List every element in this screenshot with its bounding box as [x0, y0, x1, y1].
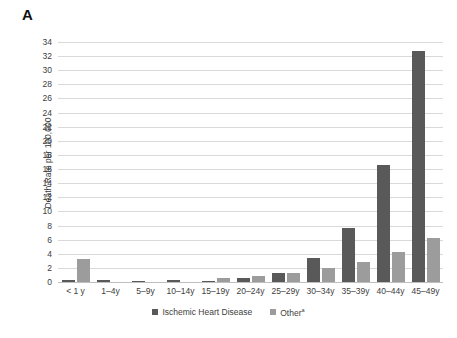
x-axis-tick-label: < 1 y	[66, 286, 85, 296]
bar	[342, 228, 355, 282]
y-axis-tick-label: 32	[26, 51, 52, 61]
x-axis-tick-label: 10–14y	[167, 286, 195, 296]
y-axis-tick-labels: 0246810121416182022242628303234	[26, 42, 52, 282]
figure-panel-a: A Death Rate per 100,000 024681012141618…	[0, 0, 457, 338]
x-axis-tick-label: 15–19y	[202, 286, 230, 296]
y-axis-tick-label: 8	[26, 221, 52, 231]
x-axis-tick-label: 45–49y	[412, 286, 440, 296]
x-axis-tick-labels: < 1 y1–4y5–9y10–14y15–19y20–24y25–29y30–…	[58, 286, 443, 302]
y-axis-tick-label: 4	[26, 249, 52, 259]
x-axis-tick-label: 5–9y	[136, 286, 154, 296]
y-axis-tick-label: 12	[26, 192, 52, 202]
panel-label: A	[22, 7, 33, 22]
bar	[377, 165, 390, 282]
y-axis-tick-label: 10	[26, 206, 52, 216]
legend-item[interactable]: Ischemic Heart Disease	[152, 307, 252, 317]
bar	[392, 252, 405, 282]
legend-label: Ischemic Heart Disease	[162, 307, 252, 317]
legend-swatch-icon	[152, 309, 158, 315]
bar	[77, 259, 90, 282]
bar	[202, 281, 215, 282]
bar	[322, 268, 335, 282]
x-axis-tick-label: 30–34y	[307, 286, 335, 296]
bar-group	[373, 42, 408, 282]
bar-group	[198, 42, 233, 282]
bar	[427, 238, 440, 282]
bar	[357, 262, 370, 282]
bar-group	[128, 42, 163, 282]
bar-group	[163, 42, 198, 282]
bar-group	[338, 42, 373, 282]
legend-footnote-marker: a	[301, 307, 304, 313]
bar	[132, 281, 145, 282]
y-axis-tick-label: 16	[26, 164, 52, 174]
legend-item[interactable]: Othera	[270, 307, 304, 318]
x-axis-tick-label: 20–24y	[237, 286, 265, 296]
x-axis-tick-label: 1–4y	[101, 286, 119, 296]
y-axis-tick-label: 20	[26, 136, 52, 146]
bar-group	[408, 42, 443, 282]
y-axis-tick-label: 2	[26, 263, 52, 273]
y-axis-tick-label: 18	[26, 150, 52, 160]
x-axis-tick-label: 40–44y	[377, 286, 405, 296]
y-axis-tick-label: 34	[26, 37, 52, 47]
y-axis-tick-label: 30	[26, 65, 52, 75]
bar-group	[303, 42, 338, 282]
bar-group	[233, 42, 268, 282]
bar	[412, 51, 425, 282]
y-axis-tick-label: 14	[26, 178, 52, 188]
bar-group	[58, 42, 93, 282]
legend-label: Othera	[280, 307, 304, 318]
legend-swatch-icon	[270, 309, 276, 315]
y-axis-tick-label: 28	[26, 79, 52, 89]
bar	[307, 258, 320, 282]
gridline	[58, 282, 443, 283]
bar	[272, 273, 285, 282]
y-axis-tick-label: 0	[26, 277, 52, 287]
bar	[97, 280, 110, 282]
y-axis-tick-label: 26	[26, 93, 52, 103]
plot-area	[58, 42, 443, 282]
chart-legend: Ischemic Heart DiseaseOthera	[0, 307, 457, 318]
x-axis-tick-label: 25–29y	[272, 286, 300, 296]
x-axis-tick-label: 35–39y	[342, 286, 370, 296]
y-axis-tick-label: 6	[26, 235, 52, 245]
bar	[217, 278, 230, 282]
y-axis-tick-label: 24	[26, 108, 52, 118]
bar-group	[93, 42, 128, 282]
bar	[62, 280, 75, 282]
bar-group	[268, 42, 303, 282]
bar	[287, 273, 300, 282]
bar	[252, 276, 265, 282]
bar	[237, 278, 250, 282]
y-axis-tick-label: 22	[26, 122, 52, 132]
bar	[167, 280, 180, 282]
